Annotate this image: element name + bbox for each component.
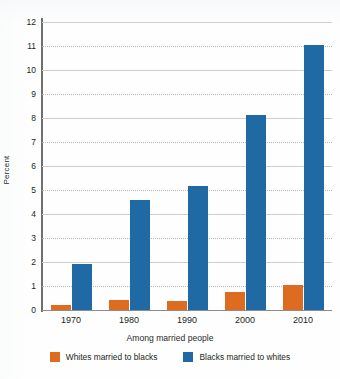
blue-swatch-icon: [183, 352, 193, 362]
bar-2010-orange: [283, 285, 303, 310]
legend-item-1[interactable]: Whites married to blacks: [50, 352, 158, 362]
y-tick-label: 2: [8, 258, 36, 267]
bar-1990-blue: [188, 186, 208, 310]
y-tick-label: 11: [8, 42, 36, 51]
bar-group: [283, 22, 324, 310]
x-axis-baseline: [42, 310, 332, 311]
bar-group: [51, 22, 92, 310]
legend-item-2[interactable]: Blacks married to whites: [183, 352, 290, 362]
legend-label: Whites married to blacks: [66, 352, 158, 362]
bar-1970-orange: [51, 305, 71, 310]
x-tick-label: 2010: [278, 315, 328, 325]
y-tick-label: 7: [8, 138, 36, 147]
y-tick-label: 5: [8, 186, 36, 195]
bar-2010-blue: [304, 45, 324, 310]
y-tick-label: 4: [8, 210, 36, 219]
x-axis-title: Among married people: [0, 333, 340, 343]
x-tick-label: 1990: [162, 315, 212, 325]
legend-label: Blacks married to whites: [199, 352, 290, 362]
bar-group: [109, 22, 150, 310]
bar-1970-blue: [72, 264, 92, 310]
y-tick-label: 8: [8, 114, 36, 123]
bar-2000-blue: [246, 115, 266, 310]
orange-swatch-icon: [50, 352, 60, 362]
chart-legend: Whites married to blacksBlacks married t…: [0, 352, 340, 362]
y-tick-label: 10: [8, 66, 36, 75]
bar-group: [225, 22, 266, 310]
bar-1980-orange: [109, 300, 129, 310]
x-tick-label: 1980: [104, 315, 154, 325]
y-tick-label: 9: [8, 90, 36, 99]
x-tick-label: 2000: [220, 315, 270, 325]
y-tick-label: 12: [8, 18, 36, 27]
chart-figure: Percent 0123456789101112 197019801990200…: [0, 0, 340, 379]
y-tick-label: 0: [8, 306, 36, 315]
y-tick-label: 3: [8, 234, 36, 243]
y-tick-label: 6: [8, 162, 36, 171]
plot-area: [42, 22, 332, 310]
bar-2000-orange: [225, 292, 245, 310]
bar-group: [167, 22, 208, 310]
bar-1980-blue: [130, 200, 150, 310]
y-tick-label: 1: [8, 282, 36, 291]
x-tick-label: 1970: [46, 315, 96, 325]
bar-1990-orange: [167, 301, 187, 310]
